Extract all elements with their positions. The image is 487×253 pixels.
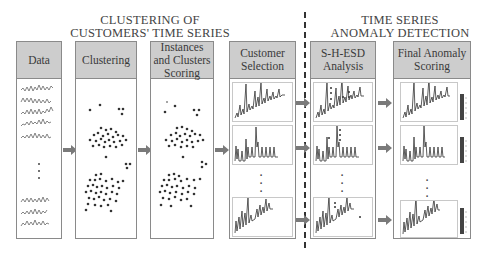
cluster-scatter-plot xyxy=(76,80,136,238)
color-scale-bar xyxy=(460,137,468,163)
panel-label: Final Anomaly xyxy=(398,47,467,60)
clustering-panel: Clustering xyxy=(75,41,137,239)
panel-label: Scoring xyxy=(414,60,450,73)
panel-label: Instances xyxy=(161,41,204,54)
panel-header: Instances and Clusters Scoring xyxy=(151,42,213,79)
scored-scatter-plot xyxy=(151,80,213,238)
arrow-icon xyxy=(378,215,392,225)
anomaly-section-title: TIME SERIES ANOMALY DETECTION xyxy=(320,14,480,40)
arrow-icon xyxy=(296,215,310,225)
arrow-icon xyxy=(296,98,310,108)
arrow-icon xyxy=(215,145,229,155)
panel-label: Clustering xyxy=(82,54,130,67)
panel-header: S-H-ESD Analysis xyxy=(311,42,375,79)
time-series-plot xyxy=(232,197,293,237)
time-series-thumbnails xyxy=(19,82,59,238)
final-anomaly-scoring-panel: Final Anomaly Scoring ··· xyxy=(393,41,471,239)
panel-label: Data xyxy=(28,54,50,67)
time-series-plot xyxy=(232,82,293,122)
panel-label: Selection xyxy=(241,60,284,73)
panel-header: Clustering xyxy=(76,42,136,79)
time-series-plot xyxy=(232,125,293,165)
panel-label: Customer xyxy=(240,47,285,60)
arrow-icon xyxy=(378,143,392,153)
ellipsis: ··· xyxy=(421,177,433,201)
scored-plot xyxy=(400,125,458,165)
ellipsis: ··· xyxy=(336,172,348,196)
anomaly-plot xyxy=(313,125,373,165)
anomaly-plot xyxy=(313,197,373,237)
customer-selection-panel: Customer Selection ··· xyxy=(229,41,296,239)
anomaly-plot xyxy=(313,82,373,122)
panel-label: Scoring xyxy=(164,67,200,80)
color-scale-bar xyxy=(460,94,468,120)
data-panel: Data xyxy=(16,41,62,239)
arrow-icon xyxy=(296,143,310,153)
panel-label: and Clusters xyxy=(153,54,210,67)
panel-header: Final Anomaly Scoring xyxy=(394,42,470,79)
scored-plot xyxy=(400,200,458,238)
panel-header: Customer Selection xyxy=(230,42,295,79)
ellipsis: ··· xyxy=(255,172,267,196)
title-line: ANOMALY DETECTION xyxy=(320,27,480,40)
shesd-analysis-panel: S-H-ESD Analysis ··· xyxy=(310,41,376,239)
arrow-icon xyxy=(378,98,392,108)
section-divider xyxy=(304,12,306,248)
panel-label: Analysis xyxy=(323,60,363,73)
clustering-section-title: CLUSTERING OF CUSTOMERS' TIME SERIES xyxy=(70,14,230,40)
scoring-panel: Instances and Clusters Scoring xyxy=(150,41,214,239)
panel-label: S-H-ESD xyxy=(321,47,365,60)
scored-plot xyxy=(400,82,458,122)
color-scale-bar xyxy=(460,208,468,234)
panel-header: Data xyxy=(17,42,61,79)
title-line: CUSTOMERS' TIME SERIES xyxy=(70,27,230,40)
